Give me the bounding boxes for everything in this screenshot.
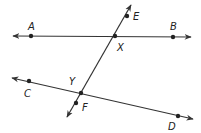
lines-group: [12, 5, 193, 119]
point-d: [176, 114, 180, 118]
label-c: C: [24, 88, 31, 99]
label-a: A: [27, 21, 35, 32]
label-e: E: [133, 11, 140, 22]
point-b: [171, 35, 175, 39]
line-cd: [12, 78, 193, 119]
point-x: [113, 34, 117, 38]
points-group: ABXEYFCD: [24, 11, 180, 132]
label-x: X: [116, 42, 125, 53]
label-y: Y: [69, 76, 76, 87]
point-y: [79, 91, 83, 95]
label-b: B: [170, 21, 177, 32]
point-a: [29, 34, 33, 38]
point-f: [74, 101, 78, 105]
label-f: F: [82, 102, 88, 113]
point-c: [27, 79, 31, 83]
geometry-diagram: ABXEYFCD: [0, 0, 201, 133]
label-d: D: [168, 121, 176, 132]
line-ef: [67, 5, 131, 117]
line-ab: [13, 36, 191, 37]
point-e: [125, 14, 129, 18]
